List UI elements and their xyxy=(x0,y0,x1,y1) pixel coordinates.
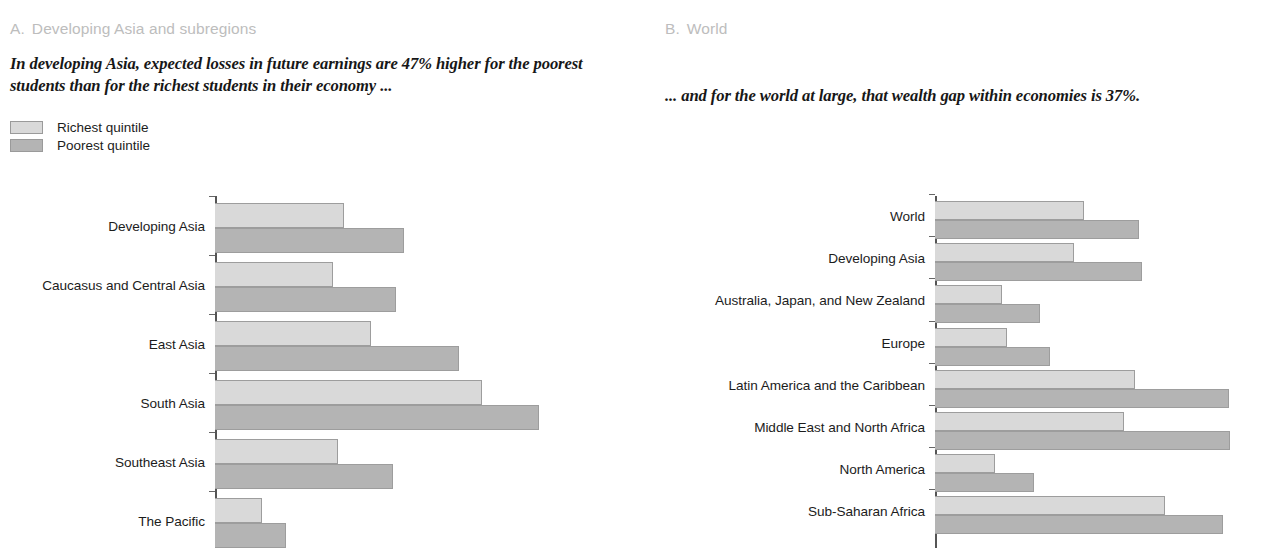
bar-poorest xyxy=(215,464,393,489)
bar-richest xyxy=(215,498,262,523)
category-label: Sub-Saharan Africa xyxy=(635,504,925,519)
bar-poorest xyxy=(935,389,1229,408)
bar-poorest xyxy=(935,220,1139,239)
bar-richest xyxy=(935,285,1002,304)
bar-richest xyxy=(935,496,1165,515)
bar-poorest xyxy=(215,287,396,312)
category-label: Caucasus and Central Asia xyxy=(5,278,205,293)
bar-richest xyxy=(215,262,333,287)
category-label: Middle East and North Africa xyxy=(635,420,925,435)
legend-label-poorest: Poorest quintile xyxy=(57,138,150,153)
bar-richest xyxy=(935,370,1135,389)
axis-tick xyxy=(929,363,935,364)
panel-a-heading-text: Developing Asia and subregions xyxy=(32,20,256,37)
category-label: North America xyxy=(635,462,925,477)
bar-poorest xyxy=(215,523,286,548)
category-label: World xyxy=(635,209,925,224)
bar-poorest xyxy=(215,405,539,430)
chart-plot-world: WorldDeveloping AsiaAustralia, Japan, an… xyxy=(631,196,1262,548)
legend-swatch-poorest xyxy=(10,139,43,152)
axis-tick xyxy=(209,255,215,256)
panel-b-heading: B.World xyxy=(665,20,728,38)
bar-richest xyxy=(215,203,344,228)
category-label: East Asia xyxy=(5,337,205,352)
category-label: Southeast Asia xyxy=(5,455,205,470)
panel-b-subtitle: ... and for the world at large, that wea… xyxy=(665,85,1262,107)
axis-tick xyxy=(929,321,935,322)
axis-tick xyxy=(209,196,215,197)
category-label: Latin America and the Caribbean xyxy=(635,378,925,393)
axis-tick xyxy=(929,236,935,237)
axis-tick xyxy=(209,373,215,374)
bar-poorest xyxy=(935,262,1142,281)
category-label: Europe xyxy=(635,336,925,351)
category-label: Developing Asia xyxy=(635,251,925,266)
panel-b-heading-letter: B. xyxy=(665,20,680,37)
legend-label-richest: Richest quintile xyxy=(57,120,149,135)
axis-tick xyxy=(929,194,935,195)
bar-poorest xyxy=(215,346,459,371)
axis-tick xyxy=(209,432,215,433)
panel-a-subtitle: In developing Asia, expected losses in f… xyxy=(10,53,610,97)
bar-richest xyxy=(215,321,371,346)
chart-plot-developing-asia: Developing AsiaCaucasus and Central Asia… xyxy=(0,196,631,548)
bar-poorest xyxy=(935,515,1223,534)
axis-tick xyxy=(209,491,215,492)
panel-a-heading-letter: A. xyxy=(10,20,25,37)
axis-tick xyxy=(209,314,215,315)
axis-tick xyxy=(929,405,935,406)
category-label: The Pacific xyxy=(5,514,205,529)
bar-richest xyxy=(935,412,1124,431)
category-label: Australia, Japan, and New Zealand xyxy=(635,293,925,308)
bar-poorest xyxy=(935,347,1050,366)
axis-tick xyxy=(929,447,935,448)
bar-richest xyxy=(215,439,338,464)
bar-poorest xyxy=(935,431,1230,450)
legend-item-richest: Richest quintile xyxy=(10,119,150,136)
legend-item-poorest: Poorest quintile xyxy=(10,137,150,154)
bar-richest xyxy=(215,380,482,405)
category-label: Developing Asia xyxy=(5,219,205,234)
bar-poorest xyxy=(215,228,404,253)
panel-developing-asia: A.Developing Asia and subregions In deve… xyxy=(0,0,631,548)
bar-poorest xyxy=(935,473,1034,492)
legend-swatch-richest xyxy=(10,121,43,134)
bar-richest xyxy=(935,243,1074,262)
panel-b-heading-text: World xyxy=(687,20,728,37)
axis-tick xyxy=(929,278,935,279)
bar-richest xyxy=(935,454,995,473)
axis-tick xyxy=(929,489,935,490)
bar-richest xyxy=(935,201,1084,220)
panel-world: B.World ... and for the world at large, … xyxy=(631,0,1262,548)
legend: Richest quintile Poorest quintile xyxy=(10,119,150,155)
bar-richest xyxy=(935,328,1007,347)
panel-a-heading: A.Developing Asia and subregions xyxy=(10,20,256,38)
bar-poorest xyxy=(935,304,1040,323)
category-label: South Asia xyxy=(5,396,205,411)
